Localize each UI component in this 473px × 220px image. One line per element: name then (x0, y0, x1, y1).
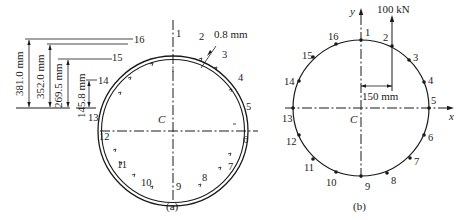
node-label-b-3: 3 (413, 52, 418, 63)
node-label-b-16: 16 (328, 31, 339, 42)
node-label-4: 4 (238, 72, 244, 83)
node-label-b-10: 10 (326, 177, 337, 188)
dim-label-352: 352.0 mm (34, 54, 46, 99)
node-label-b-11: 11 (304, 162, 314, 173)
node-label-3: 3 (222, 49, 227, 60)
wall-ticks (113, 58, 236, 189)
dim-label-1458: 145.8 mm (75, 73, 87, 118)
node-label-b-6: 6 (428, 132, 433, 143)
node-label-12: 12 (99, 131, 110, 142)
dim-arrow-2695 (66, 60, 69, 107)
node-label-b-9: 9 (365, 181, 370, 192)
offset-label: 150 mm (362, 90, 399, 102)
caption-a: (a) (166, 200, 179, 213)
load-label: 100 kN (377, 3, 410, 15)
node-label-7: 7 (228, 161, 233, 172)
node-label-b-5: 5 (431, 95, 436, 106)
node-label-15: 15 (112, 52, 123, 63)
node-label-b-4: 4 (428, 75, 434, 86)
dim-arrow-381 (27, 40, 30, 107)
node-label-16: 16 (134, 34, 145, 45)
node-label-5: 5 (246, 101, 251, 112)
node-label-b-15: 15 (302, 50, 313, 61)
y-axis-arrow (359, 8, 363, 15)
node-label-2: 2 (199, 31, 204, 42)
node-label-1: 1 (176, 28, 181, 39)
figure-a: 381.0 mm 352.0 mm 269.5 mm 145.8 mm 0.8 … (13, 20, 258, 213)
figure-b: x y 100 kN 150 mm (282, 3, 454, 213)
diagram-canvas: 381.0 mm 352.0 mm 269.5 mm 145.8 mm 0.8 … (0, 0, 473, 220)
node-label-b-12: 12 (286, 136, 297, 147)
node-label-13: 13 (88, 112, 99, 123)
offset-arrow-left (361, 84, 366, 87)
node-label-b-2: 2 (383, 32, 388, 43)
centroid-label-b: C (350, 113, 358, 125)
dim-label-2695: 269.5 mm (52, 63, 64, 108)
load-arrow-head (390, 15, 394, 22)
node-label-b-7: 7 (414, 156, 419, 167)
node-label-b-1: 1 (365, 27, 370, 38)
dim-arrow-1458 (87, 81, 90, 107)
node-label-8: 8 (202, 172, 207, 183)
dim-label-381: 381.0 mm (13, 51, 25, 96)
node-label-10: 10 (141, 177, 152, 188)
thickness-label: 0.8 mm (214, 28, 248, 40)
caption-b: (b) (353, 200, 366, 213)
centroid-label-a: C (158, 113, 166, 125)
node-label-b-13: 13 (282, 113, 293, 124)
node-label-b-8: 8 (391, 175, 396, 186)
y-axis-label: y (349, 5, 355, 17)
x-axis-label: x (448, 110, 454, 122)
node-label-6: 6 (243, 134, 248, 145)
node-label-14: 14 (98, 75, 109, 86)
node-label-9: 9 (176, 181, 181, 192)
offset-arrow-right (387, 84, 392, 87)
node-label-b-14: 14 (284, 76, 295, 87)
node-label-11: 11 (117, 159, 127, 170)
